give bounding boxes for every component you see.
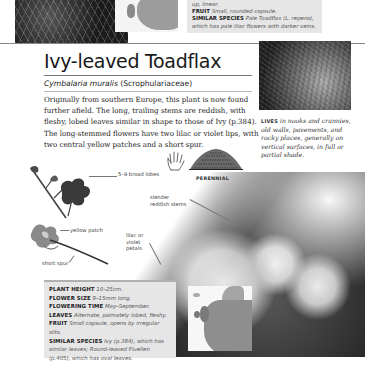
fact-flowering-time: FLOWERING TIME May–September. bbox=[49, 302, 171, 311]
fact-flower-size: FLOWER SIZE 9–15mm long. bbox=[49, 294, 171, 303]
latin-name: Cymbalaria muralis (Scrophulariaceae) bbox=[44, 79, 192, 88]
prev-fact-line: which has pale lilac flowers with darker… bbox=[192, 23, 317, 30]
habitat-photo bbox=[259, 41, 351, 110]
fact-similar-species: SIMILAR SPECIES Ivy (p.384), which has s… bbox=[49, 337, 171, 363]
species-title: Ivy-leaved Toadflax bbox=[44, 50, 221, 72]
hand-icon bbox=[165, 150, 187, 172]
facts-box: PLANT HEIGHT 10–25cm. FLOWER SIZE 9–15mm… bbox=[44, 280, 176, 358]
leader-line bbox=[89, 176, 117, 177]
latin-rule bbox=[44, 91, 252, 92]
previous-facts-box: up, linear. FRUIT Small, rounded capsule… bbox=[187, 0, 322, 33]
title-rule bbox=[44, 75, 252, 76]
fact-leaves: LEAVES Alternate, palmately lobed, flesh… bbox=[49, 311, 171, 320]
perennial-icon bbox=[188, 148, 244, 170]
prev-fact-line: up, linear. bbox=[192, 1, 317, 8]
distribution-map bbox=[188, 286, 252, 351]
fact-fruit: FRUIT Small capsule, opens by irregular … bbox=[49, 319, 171, 336]
prev-fact-fruit: FRUIT Small, rounded capsule. bbox=[192, 8, 317, 15]
fact-plant-height: PLANT HEIGHT 10–25cm. bbox=[49, 285, 171, 294]
annotation-spur: short spur bbox=[42, 260, 68, 267]
annotation-lobes: 5–9 broad lobes bbox=[118, 171, 159, 178]
previous-distribution-map bbox=[115, 0, 178, 32]
species-description: Originally from southern Europe, this pl… bbox=[44, 94, 262, 150]
family-name: (Scrophulariaceae) bbox=[120, 79, 192, 88]
annotation-yellow-patch: yellow patch bbox=[70, 227, 103, 234]
prev-fact-similar: SIMILAR SPECIES Pale Toadflax (L. repens… bbox=[192, 15, 317, 22]
previous-entry-photo bbox=[15, 0, 128, 43]
habitat-text: LIVES in nooks and crannies, old walls, … bbox=[261, 117, 353, 160]
leaf-illustration bbox=[28, 162, 100, 224]
binomial: Cymbalaria muralis bbox=[44, 79, 118, 88]
leader-line bbox=[60, 230, 69, 231]
annotation-stems: slender reddish stems bbox=[150, 194, 190, 207]
